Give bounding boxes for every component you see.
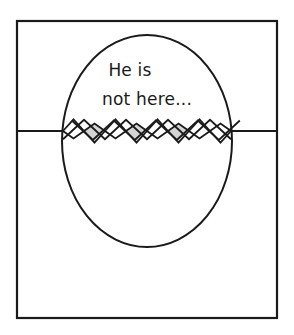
card-scene: He is not here... [0, 0, 294, 335]
message-line-1: He is [108, 60, 151, 80]
card-illustration: He is not here... [0, 0, 294, 335]
message-line-2: not here... [102, 89, 192, 109]
